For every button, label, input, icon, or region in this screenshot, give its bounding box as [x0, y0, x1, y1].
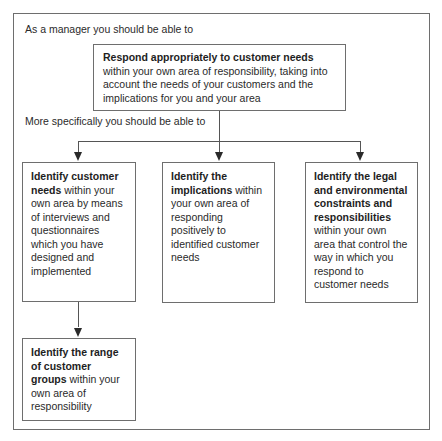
arrow-down-icon	[356, 152, 364, 161]
arrow-down-icon	[74, 152, 82, 161]
identify-needs-box: Identify customer needs within your own …	[22, 162, 136, 302]
identify-constraints-desc: within your own area that control the wa…	[314, 224, 407, 290]
identify-constraints-box: Identify the legal and environmental con…	[305, 162, 418, 303]
identify-range-box: Identify the range of customer groups wi…	[22, 338, 136, 421]
identify-needs-desc: within your own area by means of intervi…	[31, 184, 123, 277]
connector-top-trunk	[219, 111, 220, 154]
top-objective-title: Respond appropriately to customer needs	[103, 51, 314, 63]
identify-implications-title: Identify the implications	[171, 170, 232, 196]
arrow-down-icon	[215, 152, 223, 161]
top-objective-desc: within your own area of responsibility, …	[103, 65, 328, 104]
top-objective-box: Respond appropriately to customer needs …	[93, 44, 346, 111]
specific-text: More specifically you should be able to	[25, 115, 205, 128]
connector-horizontal	[78, 141, 361, 142]
arrow-down-icon	[74, 328, 82, 337]
connector-lower	[78, 302, 79, 327]
identify-implications-box: Identify the implications within your ow…	[162, 162, 275, 303]
identify-constraints-title: Identify the legal and environmental con…	[314, 170, 407, 223]
intro-text: As a manager you should be able to	[25, 23, 193, 36]
